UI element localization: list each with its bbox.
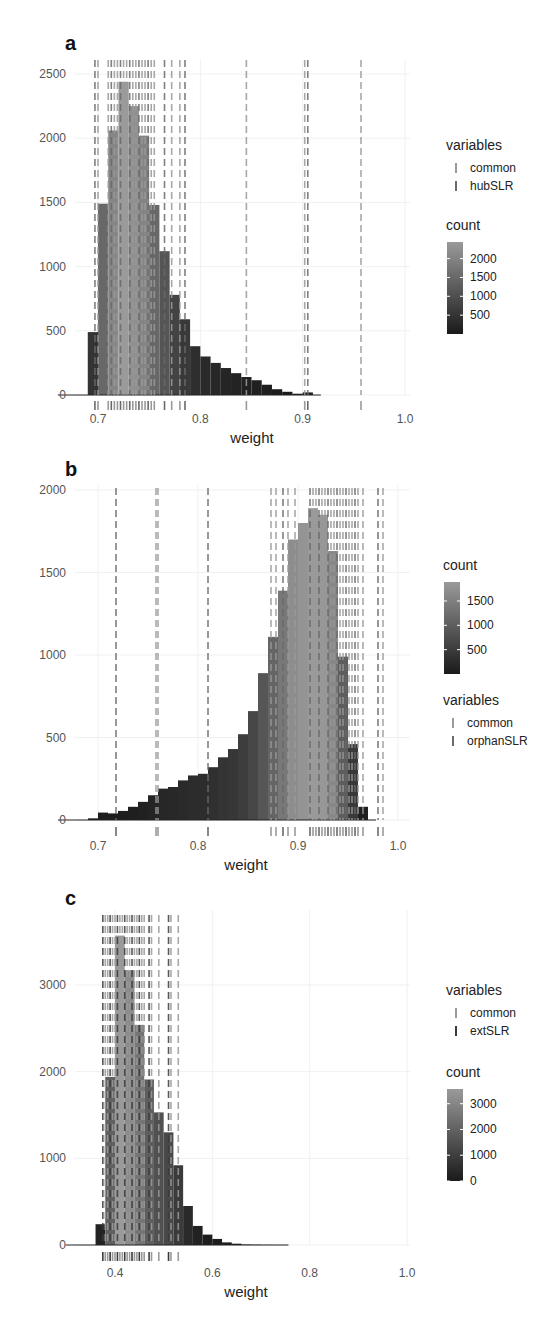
legend: variablescommonhubSLRcount20001500100050… xyxy=(446,137,516,334)
colorbar-tick-label: 1500 xyxy=(467,594,494,608)
x-tick-label: 0.6 xyxy=(204,1266,221,1280)
figure: a050010001500200025000.70.80.91.0weightv… xyxy=(0,0,548,1317)
histogram-bar xyxy=(231,373,241,395)
x-tick-label: 0.8 xyxy=(301,1266,318,1280)
y-tick-label: 0 xyxy=(59,813,66,827)
y-tick-label: 3000 xyxy=(39,978,66,992)
y-tick-label: 2000 xyxy=(39,483,66,497)
colorbar-tick-label: 1000 xyxy=(470,289,497,303)
x-tick-label: 0.9 xyxy=(294,412,311,426)
histogram-bar xyxy=(198,774,208,820)
histogram-bar xyxy=(272,389,282,395)
y-tick-label: 500 xyxy=(46,731,66,745)
histogram-bar xyxy=(128,807,138,820)
histogram-bar xyxy=(183,1206,193,1245)
x-tick-label: 1.0 xyxy=(399,1266,416,1280)
legend-item-label: hubSLR xyxy=(470,179,514,193)
legend: variablescommonorphanSLRcount15001000500 xyxy=(443,557,528,748)
colorbar-tick-label: 1000 xyxy=(470,1148,497,1162)
panel-b: b05001000150020000.70.80.91.0weightvaria… xyxy=(39,458,528,873)
x-axis-title: weight xyxy=(229,429,274,446)
legend-title: count xyxy=(443,557,477,573)
y-tick-label: 1000 xyxy=(39,1151,66,1165)
legend-item-label: common xyxy=(470,161,516,175)
x-tick-label: 0.8 xyxy=(190,839,207,853)
x-tick-label: 0.4 xyxy=(107,1266,124,1280)
x-axis-title: weight xyxy=(223,856,268,873)
histogram-bar xyxy=(238,734,248,820)
colorbar-tick-label: 500 xyxy=(470,308,490,322)
legend-variables: variablescommonhubSLR xyxy=(446,137,516,193)
legend-item-label: common xyxy=(467,716,513,730)
y-tick-label: 1000 xyxy=(39,648,66,662)
histogram-bar xyxy=(98,813,108,820)
histogram-bar xyxy=(228,749,238,820)
histogram-bar xyxy=(298,523,308,820)
x-tick-label: 0.7 xyxy=(90,839,107,853)
histogram-bar xyxy=(138,802,148,820)
colorbar xyxy=(444,582,460,674)
histogram-bar xyxy=(98,204,108,395)
legend-item-label: common xyxy=(470,1006,516,1020)
y-tick-label: 1500 xyxy=(39,195,66,209)
legend-variables: variablescommonextSLR xyxy=(446,982,516,1038)
histogram-bar xyxy=(200,356,210,395)
x-tick-label: 1.0 xyxy=(390,839,407,853)
panel-label: a xyxy=(65,32,77,54)
legend-count: count3000200010000 xyxy=(446,1064,497,1188)
colorbar-tick-label: 1000 xyxy=(467,618,494,632)
y-tick-label: 2500 xyxy=(39,67,66,81)
y-tick-label: 0 xyxy=(59,388,66,402)
panel-c: c01000200030000.40.60.81.0weightvariable… xyxy=(39,887,516,1300)
legend-title: variables xyxy=(443,692,499,708)
legend: variablescommonextSLRcount3000200010000 xyxy=(446,982,516,1188)
legend-count: count200015001000500 xyxy=(446,217,497,334)
legend-item-label: extSLR xyxy=(470,1024,510,1038)
histogram-bar xyxy=(212,1239,222,1245)
histogram-bar xyxy=(118,811,128,820)
x-tick-label: 1.0 xyxy=(397,412,414,426)
histogram-bar xyxy=(248,711,258,820)
panel-label: c xyxy=(65,887,76,909)
y-tick-label: 1000 xyxy=(39,260,66,274)
histogram-bar xyxy=(188,775,198,820)
legend-title: variables xyxy=(446,982,502,998)
colorbar-tick-label: 2000 xyxy=(470,1122,497,1136)
histogram-bar xyxy=(208,767,218,820)
x-tick-label: 0.8 xyxy=(192,412,209,426)
figure-canvas: a050010001500200025000.70.80.91.0weightv… xyxy=(0,0,548,1317)
histogram-bar xyxy=(149,205,159,395)
legend-title: count xyxy=(446,1064,480,1080)
x-tick-label: 0.7 xyxy=(90,412,107,426)
x-tick-label: 0.9 xyxy=(290,839,307,853)
legend-title: variables xyxy=(446,137,502,153)
y-tick-label: 2000 xyxy=(39,1065,66,1079)
histogram-bar xyxy=(288,540,298,821)
legend-title: count xyxy=(446,217,480,233)
panel-label: b xyxy=(65,458,77,480)
y-tick-label: 1500 xyxy=(39,566,66,580)
colorbar xyxy=(447,1089,463,1181)
histogram-bar xyxy=(168,787,178,820)
colorbar-tick-label: 1500 xyxy=(470,270,497,284)
colorbar-tick-label: 2000 xyxy=(470,252,497,266)
y-tick-label: 500 xyxy=(46,324,66,338)
histogram-bar xyxy=(258,673,268,820)
colorbar-tick-label: 0 xyxy=(470,1174,477,1188)
colorbar xyxy=(447,242,463,334)
legend-count: count15001000500 xyxy=(443,557,494,674)
histogram-bars xyxy=(88,508,368,820)
histogram-bar xyxy=(190,346,200,395)
histogram-bar xyxy=(193,1226,203,1245)
histogram-bar xyxy=(262,385,272,395)
histogram-bar xyxy=(218,757,228,820)
histogram-bar xyxy=(211,363,221,395)
histogram-bar xyxy=(134,1025,144,1245)
colorbar-tick-label: 3000 xyxy=(470,1097,497,1111)
colorbar-tick-label: 500 xyxy=(467,643,487,657)
y-tick-label: 2000 xyxy=(39,131,66,145)
x-axis-title: weight xyxy=(223,1283,268,1300)
histogram-bar xyxy=(203,1235,213,1245)
panel-a: a050010001500200025000.70.80.91.0weightv… xyxy=(39,32,516,446)
histogram-bar xyxy=(221,368,231,395)
